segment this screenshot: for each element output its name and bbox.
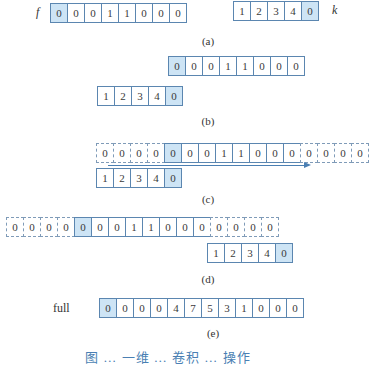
array-cell: 3 <box>241 243 259 263</box>
array-cell: 7 <box>184 298 202 318</box>
array-cell: 0 <box>150 298 168 318</box>
f-array-a: 0 0 0 1 1 0 0 0 <box>50 3 187 23</box>
array-cell: 0 <box>91 217 109 237</box>
array-cell: 1 <box>207 243 225 263</box>
k-array-c: 1 2 3 4 0 <box>96 168 182 188</box>
padding-cell: 0 <box>6 217 24 237</box>
array-cell: 0 <box>202 56 220 76</box>
array-cell: 0 <box>108 217 126 237</box>
array-cell: 1 <box>97 86 115 106</box>
array-cell: 0 <box>266 143 284 163</box>
array-cell: 2 <box>113 168 131 188</box>
padding-cell: 0 <box>227 217 245 237</box>
array-cell: 0 <box>50 3 68 23</box>
array-cell: 4 <box>147 168 165 188</box>
array-cell: 4 <box>167 298 185 318</box>
array-cell: 3 <box>130 168 148 188</box>
k-array-a: 1 2 3 4 0 <box>233 1 319 21</box>
array-cell: 0 <box>283 143 301 163</box>
caption-b: (b) <box>202 115 215 127</box>
array-cell: 0 <box>116 298 134 318</box>
full-label: full <box>53 301 70 316</box>
array-cell: 0 <box>275 243 293 263</box>
padding-cell: 0 <box>147 143 165 163</box>
array-cell: 0 <box>249 143 267 163</box>
array-cell: 1 <box>101 3 119 23</box>
array-cell: 1 <box>232 143 250 163</box>
array-cell: 0 <box>165 86 183 106</box>
array-cell: 0 <box>133 298 151 318</box>
array-cell: 1 <box>235 298 253 318</box>
padding-cell: 0 <box>261 217 279 237</box>
array-cell: 1 <box>96 168 114 188</box>
caption-c: (c) <box>202 193 214 205</box>
caption-e: (e) <box>207 327 219 339</box>
array-cell: 0 <box>168 56 186 76</box>
f-label: f <box>36 5 39 20</box>
padding-cell: 0 <box>244 217 262 237</box>
array-cell: 0 <box>193 217 211 237</box>
array-cell: 1 <box>219 56 237 76</box>
array-cell: 0 <box>287 56 305 76</box>
array-cell: 0 <box>152 3 170 23</box>
array-cell: 0 <box>270 56 288 76</box>
padding-cell: 0 <box>334 143 352 163</box>
padding-cell: 0 <box>40 217 58 237</box>
padding-cell: 0 <box>57 217 75 237</box>
array-cell: 3 <box>267 1 285 21</box>
array-cell: 0 <box>253 56 271 76</box>
array-cell: 0 <box>301 1 319 21</box>
array-cell: 1 <box>215 143 233 163</box>
array-cell: 0 <box>269 298 287 318</box>
slide-arrow-icon <box>108 165 305 166</box>
array-cell: 0 <box>252 298 270 318</box>
k-array-d: 1 2 3 4 0 <box>207 243 293 263</box>
full-array-e: 0 0 0 0 4 7 5 3 1 0 0 0 <box>99 298 304 318</box>
array-cell: 3 <box>218 298 236 318</box>
array-cell: 0 <box>164 143 182 163</box>
padding-cell: 0 <box>113 143 131 163</box>
padded-f-array-c: 0 0 0 0 0 0 0 1 1 0 0 0 0 0 0 0 <box>96 143 369 163</box>
array-cell: 4 <box>284 1 302 21</box>
padding-cell: 0 <box>351 143 369 163</box>
array-cell: 0 <box>67 3 85 23</box>
array-cell: 1 <box>236 56 254 76</box>
array-cell: 1 <box>142 217 160 237</box>
f-array-b: 0 0 0 1 1 0 0 0 <box>168 56 305 76</box>
padding-cell: 0 <box>130 143 148 163</box>
array-cell: 0 <box>176 217 194 237</box>
k-array-b: 1 2 3 4 0 <box>97 86 183 106</box>
array-cell: 0 <box>99 298 117 318</box>
array-cell: 0 <box>84 3 102 23</box>
array-cell: 5 <box>201 298 219 318</box>
array-cell: 4 <box>148 86 166 106</box>
figure-caption: 图 … 一维 … 卷积 … 操作 <box>85 347 251 366</box>
padded-f-array-d: 0 0 0 0 0 0 0 1 1 0 0 0 0 0 0 0 <box>6 217 279 237</box>
array-cell: 0 <box>169 3 187 23</box>
array-cell: 0 <box>135 3 153 23</box>
padding-cell: 0 <box>23 217 41 237</box>
array-cell: 4 <box>258 243 276 263</box>
array-cell: 0 <box>74 217 92 237</box>
caption-a: (a) <box>202 35 214 47</box>
padding-cell: 0 <box>210 217 228 237</box>
array-cell: 1 <box>125 217 143 237</box>
array-cell: 3 <box>131 86 149 106</box>
array-cell: 1 <box>233 1 251 21</box>
padding-cell: 0 <box>96 143 114 163</box>
array-cell: 0 <box>198 143 216 163</box>
array-cell: 1 <box>118 3 136 23</box>
k-label: k <box>332 3 337 18</box>
array-cell: 2 <box>250 1 268 21</box>
array-cell: 0 <box>181 143 199 163</box>
caption-d: (d) <box>202 273 215 285</box>
array-cell: 0 <box>164 168 182 188</box>
array-cell: 0 <box>185 56 203 76</box>
padding-cell: 0 <box>300 143 318 163</box>
padding-cell: 0 <box>317 143 335 163</box>
array-cell: 0 <box>286 298 304 318</box>
array-cell: 2 <box>224 243 242 263</box>
array-cell: 2 <box>114 86 132 106</box>
array-cell: 0 <box>159 217 177 237</box>
